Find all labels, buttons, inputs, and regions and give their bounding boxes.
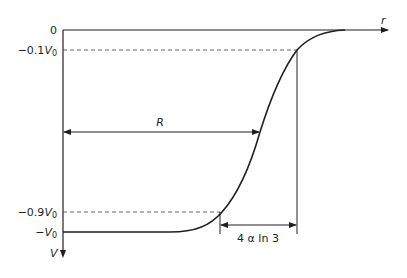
radius-label: R [156,116,164,129]
v-axis-arrow-icon [60,250,66,258]
width-label: 4 α ln 3 [237,232,279,245]
r-axis-label: r [381,14,387,27]
woods-saxon-diagram: R 4 α ln 3 r V 0 −0.1V0 −0.9V0 −V0 [0,0,407,278]
v-axis-label: V [50,247,59,260]
tick-label-ninetenths: −0.9V0 [18,206,57,220]
tick-label-tenth: −0.1V0 [18,44,57,58]
tick-label-zero: 0 [50,24,57,37]
tick-label-full: −V0 [35,226,57,240]
potential-curve [63,30,345,232]
